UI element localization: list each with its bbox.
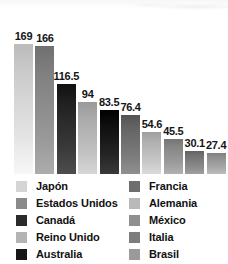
bar [185, 151, 204, 174]
scan-artifact [0, 0, 228, 14]
legend-swatch-icon [129, 232, 140, 243]
bar [35, 46, 54, 174]
bar [164, 139, 183, 174]
bar-group: 166 [35, 30, 54, 174]
legend-item-label: Canadá [36, 215, 75, 226]
legend-item-label: Brasil [149, 249, 179, 260]
bar-value-label: 166 [36, 33, 53, 44]
bar-group: 83.5 [100, 30, 119, 174]
legend-swatch-icon [16, 232, 27, 243]
legend-item[interactable]: Francia [129, 178, 228, 195]
bar-group: 169 [14, 30, 33, 174]
bar [78, 102, 97, 174]
legend-swatch-icon [129, 215, 140, 226]
legend-item-label: Alemania [149, 198, 197, 209]
bar-value-label: 169 [15, 31, 32, 42]
legend-item[interactable]: Japón [16, 178, 126, 195]
bar-value-label: 94 [82, 89, 94, 100]
bar-value-label: 83.5 [99, 97, 119, 108]
bar-group: 116.5 [57, 30, 76, 174]
bar-value-label: 76.4 [120, 102, 140, 113]
legend-item[interactable]: Alemania [129, 195, 228, 212]
bar [207, 153, 226, 174]
bar-group: 30.1 [185, 30, 204, 174]
bar-value-label: 54.6 [142, 119, 162, 130]
bar-group: 27.4 [207, 30, 226, 174]
legend-swatch-icon [16, 181, 27, 192]
bar-value-label: 116.5 [54, 71, 79, 82]
legend-item-label: Australia [36, 249, 82, 260]
legend-swatch-icon [16, 198, 27, 209]
legend-item-label: Francia [149, 181, 187, 192]
bar-group: 45.5 [164, 30, 183, 174]
legend-item-label: México [149, 215, 186, 226]
legend-column-right: FranciaAlemaniaMéxicoItaliaBrasil [129, 178, 228, 263]
legend-item[interactable]: Canadá [16, 212, 126, 229]
bar-value-label: 45.5 [163, 126, 183, 137]
legend-item[interactable]: Reino Unido [16, 229, 126, 246]
legend-item-label: Reino Unido [36, 232, 100, 243]
chart-legend: JapónEstados UnidosCanadáReino UnidoAust… [0, 178, 228, 264]
bar-group: 76.4 [121, 30, 140, 174]
legend-item[interactable]: Australia [16, 246, 126, 263]
plot-area: 169166116.59483.576.454.645.530.127.4 [0, 14, 228, 174]
legend-item-label: Estados Unidos [36, 198, 118, 209]
legend-item[interactable]: México [129, 212, 228, 229]
bar-group: 94 [78, 30, 97, 174]
legend-swatch-icon [16, 215, 27, 226]
legend-item[interactable]: Brasil [129, 246, 228, 263]
legend-column-left: JapónEstados UnidosCanadáReino UnidoAust… [16, 178, 126, 263]
legend-item-label: Italia [149, 232, 173, 243]
bar [121, 115, 140, 174]
bar-chart-figure: 169166116.59483.576.454.645.530.127.4 Ja… [0, 0, 228, 264]
bar-value-label: 30.1 [185, 138, 205, 149]
legend-swatch-icon [129, 198, 140, 209]
bar [57, 84, 76, 174]
legend-item-label: Japón [36, 181, 68, 192]
bar-group: 54.6 [142, 30, 161, 174]
legend-swatch-icon [129, 181, 140, 192]
bar [100, 110, 119, 174]
legend-item[interactable]: Italia [129, 229, 228, 246]
bar [142, 132, 161, 174]
bar [14, 44, 33, 174]
legend-item[interactable]: Estados Unidos [16, 195, 126, 212]
legend-swatch-icon [16, 249, 27, 260]
legend-swatch-icon [129, 249, 140, 260]
bar-value-label: 27.4 [206, 140, 226, 151]
